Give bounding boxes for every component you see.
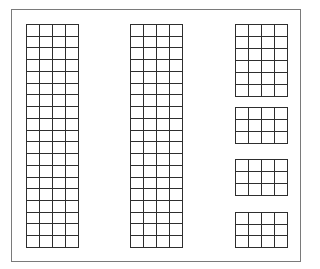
grid-cell: [249, 172, 262, 184]
grid-cell: [40, 95, 53, 107]
grid-cell: [66, 165, 79, 177]
grid-cell: [131, 130, 144, 142]
grid-cell: [275, 25, 288, 37]
grid-cell: [66, 236, 79, 248]
grid-cell: [66, 107, 79, 119]
grid-cell: [236, 49, 249, 61]
grid-cell: [170, 107, 183, 119]
grid-row: [236, 37, 288, 49]
grid-cell: [275, 85, 288, 97]
grid-cell: [144, 165, 157, 177]
grid-cell: [27, 177, 40, 189]
grid-cell: [27, 48, 40, 60]
grid-cell: [131, 118, 144, 130]
grid-cell: [170, 83, 183, 95]
grid-cell: [157, 165, 170, 177]
grid-cell: [144, 83, 157, 95]
grid-row: [131, 60, 183, 72]
grid-cell: [53, 118, 66, 130]
grid-cell: [144, 48, 157, 60]
grid-cell: [131, 154, 144, 166]
grid-row: [27, 224, 79, 236]
grid-cell: [66, 83, 79, 95]
grid-cell: [262, 213, 275, 225]
grid-cell: [170, 118, 183, 130]
grid-cell: [40, 201, 53, 213]
grid-cell: [66, 154, 79, 166]
grid-row: [131, 118, 183, 130]
grid-cell: [27, 36, 40, 48]
grid-cell: [262, 172, 275, 184]
grid-cell: [249, 160, 262, 172]
grid-cell: [131, 83, 144, 95]
grid-cell: [53, 212, 66, 224]
grid-cell: [27, 83, 40, 95]
grid-cell: [66, 118, 79, 130]
grid-cell: [131, 224, 144, 236]
grid-row: [131, 36, 183, 48]
grid-cell: [144, 107, 157, 119]
grid-cell: [53, 48, 66, 60]
grid-cell: [275, 49, 288, 61]
grid-cell: [53, 60, 66, 72]
grid-cell: [170, 95, 183, 107]
grid-cell: [66, 142, 79, 154]
grid-cell: [262, 85, 275, 97]
grid-row: [27, 154, 79, 166]
grid-cell: [131, 142, 144, 154]
grid-cell: [53, 189, 66, 201]
grid-row: [236, 25, 288, 37]
grid-cell: [40, 189, 53, 201]
grid-cell: [157, 107, 170, 119]
grid-cell: [131, 95, 144, 107]
grid-cell: [27, 201, 40, 213]
grid-cell: [144, 236, 157, 248]
grid-cell: [40, 71, 53, 83]
grid-cell: [66, 212, 79, 224]
grid-row: [236, 224, 288, 236]
grid-cell: [157, 83, 170, 95]
grid-cell: [275, 184, 288, 196]
grid-cell: [131, 60, 144, 72]
grid-cell: [157, 236, 170, 248]
grid-row: [236, 172, 288, 184]
grid-row: [27, 36, 79, 48]
grid-cell: [53, 177, 66, 189]
grid-row: [131, 107, 183, 119]
grid-cell: [40, 60, 53, 72]
grid-cell: [236, 172, 249, 184]
grid-row: [131, 201, 183, 213]
grid-cell: [27, 154, 40, 166]
grid-cell: [236, 37, 249, 49]
grid-cell: [27, 130, 40, 142]
grid-cell: [157, 224, 170, 236]
grid-cell: [236, 160, 249, 172]
grid-row: [236, 184, 288, 196]
grid-cell: [275, 236, 288, 248]
grid-cell: [262, 108, 275, 120]
grid-cell: [157, 154, 170, 166]
grid-cell: [249, 236, 262, 248]
grid-cell: [249, 49, 262, 61]
grid-cell: [53, 224, 66, 236]
grid-row: [236, 61, 288, 73]
grid-cell: [157, 48, 170, 60]
grid-row: [131, 236, 183, 248]
grid-row: [131, 177, 183, 189]
grid-cell: [262, 37, 275, 49]
grid-cell: [236, 120, 249, 132]
right-grid-3: [235, 159, 288, 196]
grid-row: [27, 130, 79, 142]
grid-row: [27, 201, 79, 213]
grid-cell: [157, 36, 170, 48]
grid-cell: [66, 25, 79, 37]
grid-cell: [27, 107, 40, 119]
grid-cell: [157, 189, 170, 201]
grid-row: [236, 213, 288, 225]
grid-cell: [157, 130, 170, 142]
grid-cell: [236, 61, 249, 73]
right-grid-4: [235, 212, 288, 248]
grid-cell: [249, 85, 262, 97]
grid-cell: [53, 107, 66, 119]
grid-cell: [262, 25, 275, 37]
